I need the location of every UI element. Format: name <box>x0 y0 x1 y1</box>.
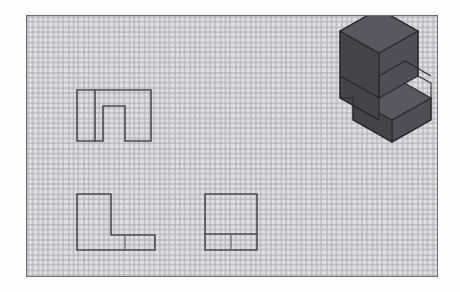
isometric-pictorial <box>340 15 431 142</box>
isometric-pictorial-layer <box>27 16 438 277</box>
worksheet-sheet: Orthographic Projection Worksheet <box>0 0 460 292</box>
drawing-frame <box>26 15 438 277</box>
